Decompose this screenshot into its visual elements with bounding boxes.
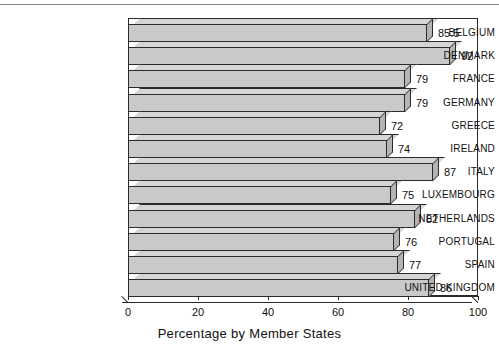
category-label-text: GREECE (452, 120, 499, 131)
bar-row (128, 180, 397, 204)
x-axis-tick (408, 296, 409, 300)
x-axis-tick (338, 296, 339, 300)
bar-value-label: 82 (426, 213, 438, 225)
x-axis-tick-label: 80 (402, 306, 414, 318)
bar-front-face (128, 186, 391, 204)
bar-value-label: 79 (416, 97, 428, 109)
category-label: FRANCE (375, 73, 499, 84)
bar-row (128, 250, 404, 274)
bar-front-face (128, 233, 394, 251)
category-label: IRELAND (375, 143, 499, 154)
category-label: GERMANY (375, 97, 499, 108)
bar-value-label: 75 (402, 189, 414, 201)
bar-value-label: 76 (405, 236, 417, 248)
x-axis-line (128, 296, 478, 297)
bar-row (128, 111, 386, 135)
category-label: DENMARK (375, 50, 499, 61)
bar-front-face (128, 117, 380, 135)
bar-row (128, 88, 411, 112)
bar-value-label: 85.5 (438, 27, 459, 39)
bar-row (128, 64, 411, 88)
bar-row (128, 134, 393, 158)
x-axis-title: Percentage by Member States (0, 326, 499, 341)
x-axis-tick-label: 60 (332, 306, 344, 318)
bar-value-label: 74 (398, 143, 410, 155)
bar-series: BELGIUM85.5DENMARK92FRANCE79GERMANY79GRE… (0, 0, 499, 359)
category-label: LUXEMBOURG (375, 189, 499, 200)
category-label-text: FRANCE (453, 73, 499, 84)
x-axis-tick (268, 296, 269, 300)
category-label: ITALY (375, 166, 499, 177)
bar-value-label: 77 (409, 259, 421, 271)
category-label-text: PORTUGAL (439, 236, 499, 247)
x-axis-tick (128, 296, 129, 300)
bar-front-face (128, 256, 398, 274)
x-axis-tick-label: 20 (192, 306, 204, 318)
bar-front-face (128, 210, 415, 228)
category-label: PORTUGAL (375, 236, 499, 247)
category-label: SPAIN (375, 259, 499, 270)
x-axis-tick-label: 40 (262, 306, 274, 318)
bar-value-label: 72 (391, 120, 403, 132)
category-label-text: IRELAND (450, 143, 499, 154)
category-label-text: GERMANY (443, 97, 499, 108)
bar-front-face (128, 140, 387, 158)
bar-front-face (128, 94, 405, 112)
x-axis-tick (478, 296, 479, 300)
bar-value-label: 92 (461, 50, 473, 62)
category-label-text: ITALY (468, 166, 499, 177)
x-axis-tick (198, 296, 199, 300)
bar-value-label: 87 (444, 166, 456, 178)
x-axis-front-edge (122, 302, 472, 303)
bar-value-label: 79 (416, 73, 428, 85)
x-axis-tick-label: 100 (469, 306, 487, 318)
x-axis-tick-label: 0 (125, 306, 131, 318)
category-label-text: LUXEMBOURG (422, 189, 499, 200)
category-label: UNITED KINGDOM (375, 282, 499, 293)
bar-value-label: 86 (440, 282, 452, 294)
category-label-text: SPAIN (465, 259, 499, 270)
bar-row (128, 227, 400, 251)
bar-chart: BELGIUM85.5DENMARK92FRANCE79GERMANY79GRE… (0, 0, 499, 359)
bar-front-face (128, 70, 405, 88)
category-label: BELGIUM (375, 27, 499, 38)
